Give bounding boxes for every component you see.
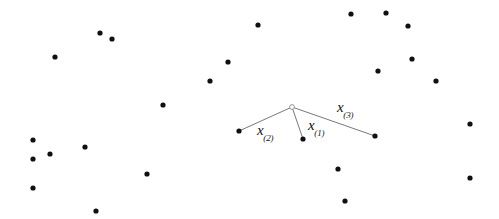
scatter-point xyxy=(255,22,260,27)
scatter-point xyxy=(93,208,98,213)
scatter-point xyxy=(467,175,472,180)
scatter-point xyxy=(144,171,149,176)
scatter-figure: x(1) x(2) x(3) xyxy=(0,0,499,219)
scatter-point xyxy=(409,56,414,61)
scatter-point xyxy=(375,68,380,73)
label-x3-subscript: (3) xyxy=(343,110,353,120)
scatter-point xyxy=(160,102,165,107)
scatter-point xyxy=(433,78,438,83)
label-x2: x(2) xyxy=(257,122,274,141)
scatter-point xyxy=(30,185,35,190)
scatter-plot-canvas xyxy=(0,0,499,219)
scatter-point xyxy=(97,30,102,35)
connection-line-x1 xyxy=(292,107,303,139)
connection-line-x3 xyxy=(292,107,375,136)
label-x3: x(3) xyxy=(337,99,354,118)
scatter-point xyxy=(335,166,340,171)
label-x2-subscript: (2) xyxy=(263,133,273,143)
scatter-point xyxy=(405,23,410,28)
scatter-point xyxy=(109,36,114,41)
label-x1-subscript: (1) xyxy=(314,128,324,138)
neighbour-point-x1 xyxy=(300,136,305,141)
scatter-point xyxy=(348,11,353,16)
scatter-points xyxy=(30,10,472,213)
scatter-point xyxy=(207,78,212,83)
scatter-point xyxy=(342,198,347,203)
scatter-point xyxy=(383,10,388,15)
neighbour-point-x3 xyxy=(372,133,377,138)
query-point-marker xyxy=(290,105,295,110)
neighbour-point-x2 xyxy=(236,128,241,133)
scatter-point xyxy=(47,151,52,156)
scatter-point xyxy=(30,156,35,161)
scatter-point xyxy=(225,59,230,64)
query-point-open-circle xyxy=(290,105,295,110)
scatter-point xyxy=(467,121,472,126)
scatter-point xyxy=(30,137,35,142)
scatter-point xyxy=(82,144,87,149)
scatter-point xyxy=(52,54,57,59)
label-x1: x(1) xyxy=(308,117,325,136)
